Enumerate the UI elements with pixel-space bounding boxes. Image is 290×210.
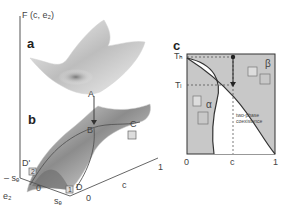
y-tick-Th: Tₕ — [174, 51, 184, 61]
e2-tick-0: 0 — [36, 183, 41, 193]
box-label-1: 1 — [68, 186, 72, 193]
x-tick-c: c — [230, 157, 235, 167]
e2-axis-label: e₂ — [3, 191, 12, 201]
axis-label-F: F (c, e₂) — [22, 10, 54, 20]
e2-tick-neg-se: – sₑ — [4, 173, 19, 183]
e2-tick-se: sₑ — [54, 196, 62, 206]
box-label-2: 2 — [31, 168, 35, 175]
coexistence-line2: coexistence — [236, 118, 262, 124]
point-A: A — [88, 89, 94, 99]
panel-tag-a: a — [27, 36, 34, 51]
c-tick-1: 1 — [158, 162, 163, 172]
box-C — [128, 131, 136, 139]
c-axis-label: c — [122, 180, 127, 190]
y-tick-Tl: Tₗ — [175, 80, 183, 90]
point-D: D — [76, 182, 83, 192]
x-tick-0: 0 — [184, 157, 189, 167]
point-C: C — [130, 119, 137, 129]
x-tick-1: 1 — [273, 157, 278, 167]
region-alpha: α — [206, 99, 212, 110]
coexistence-label: two-phase coexistence — [236, 112, 262, 124]
panel-tag-b: b — [28, 112, 36, 127]
c-tick-0: 0 — [86, 193, 91, 203]
point-B: B — [87, 125, 93, 135]
region-beta: β — [265, 58, 271, 69]
free-energy-surface-graphic — [0, 0, 290, 210]
point-D-prime: D' — [22, 158, 30, 168]
